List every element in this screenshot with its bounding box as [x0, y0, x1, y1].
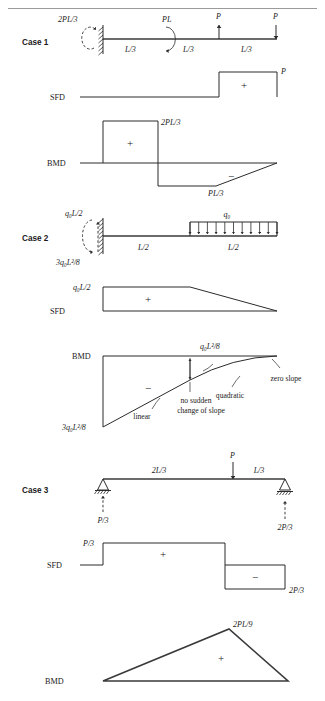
bmd-leader-zero-slope	[272, 359, 280, 368]
case-3-bmd-label: BMD	[45, 677, 64, 686]
case-1-segment-2-label: L/3	[182, 45, 194, 54]
case-1-bmd-annotation-2PL3: 2PL/3	[161, 118, 181, 127]
case-3-load-label: P	[229, 451, 235, 460]
case-1-bmd-label: BMD	[47, 159, 66, 168]
sfd-minus-sign: −	[252, 571, 258, 583]
case-2-reaction-force-label: q₀L/2	[65, 209, 82, 218]
case-3-beam: P 2L/3 L/3 P/3 2P/3	[95, 451, 294, 532]
roller-support-right	[277, 479, 294, 495]
case-2-sfd-label: SFD	[50, 307, 65, 316]
case-3-label: Case 3	[22, 486, 49, 495]
case-1-segment-3-label: L/3	[240, 45, 252, 54]
case-1-applied-moment-label: PL	[161, 15, 172, 24]
case-1-sfd-annotation-P: P	[280, 67, 286, 76]
case-2-sfd: SFD + q₀L/2	[50, 283, 277, 316]
case-2-segment-1-label: L/2	[137, 243, 149, 252]
case-3-sfd-label: SFD	[47, 561, 62, 570]
bmd-leader-quadratic	[232, 376, 240, 387]
case-2-bmd-annotation-quadratic: quadratic	[216, 391, 245, 400]
case-2-bmd-annotation-change-slope: change of slope	[177, 406, 225, 415]
case-3-left-reaction-label: P/3	[96, 516, 108, 525]
case-2-group: Case 2 q₀L/2 3q₀L²/8	[22, 209, 302, 432]
bmd-plus-sign: +	[127, 137, 133, 149]
case-3-bmd: BMD + 2PL/9	[45, 620, 288, 686]
case-2-reaction-moment-arc	[82, 220, 93, 252]
case-1-group: Case 1 2PL/3 PL P	[22, 12, 286, 198]
bmd-negative-region	[158, 163, 277, 186]
case-2-segment-2-label: L/2	[227, 243, 239, 252]
fixed-support-hatching	[99, 219, 104, 255]
bmd-minus-sign: −	[145, 382, 151, 394]
case-3-segment-2-label: L/3	[253, 466, 265, 475]
case-1-bmd: BMD + − 2PL/3 PL/3	[47, 118, 277, 198]
case-1-label: Case 1	[22, 38, 49, 47]
case-3-sfd-annotation-P3: P/3	[82, 539, 94, 548]
case-2-beam: q₀L/2 3q₀L²/8	[55, 209, 277, 267]
udl-arrows	[190, 222, 277, 234]
case-2-udl-label: q₀	[224, 210, 231, 219]
beam-diagrams-figure: Case 1 2PL/3 PL P	[0, 0, 325, 701]
case-1-sfd: SFD + P	[50, 67, 286, 102]
case-1-reaction-moment-label: 2PL/3	[58, 15, 78, 24]
case-2-sfd-annotation: q₀L/2	[73, 283, 90, 292]
case-1-beam: 2PL/3 PL P P L/3 L/3 L/3	[58, 12, 278, 55]
case-3-bmd-annotation-2PL9: 2PL/9	[233, 620, 253, 629]
case-1-load-up-label: P	[215, 12, 221, 21]
case-2-bmd-annotation-linear: linear	[133, 412, 151, 421]
case-2-reaction-moment-label: 3q₀L²/8	[55, 258, 80, 267]
sfd-plus-sign: +	[160, 548, 166, 560]
reaction-moment-arc	[82, 27, 96, 49]
case-1-bmd-annotation-PL3: PL/3	[207, 189, 224, 198]
case-2-bmd-label: BMD	[72, 352, 91, 361]
case-3-right-reaction-label: 2P/3	[277, 523, 292, 532]
case-1-sfd-label: SFD	[50, 93, 65, 102]
case-2-label: Case 2	[22, 234, 49, 243]
case-2-bmd-annotation-no-sudden: no sudden	[180, 396, 211, 405]
sfd-plus-sign: +	[145, 293, 151, 305]
sfd-outline	[103, 287, 277, 311]
case-3-group: Case 3	[22, 451, 304, 686]
case-2-bmd: BMD − q₀L²/8 3q₀L²/8 linear quadratic ze…	[61, 342, 302, 432]
bmd-minus-sign: −	[228, 170, 234, 182]
case-2-bmd-annotation-q0L2-8: q₀L²/8	[200, 342, 220, 351]
case-3-sfd: SFD + − P/3 2P/3	[47, 539, 304, 595]
case-2-distributed-load: q₀	[190, 210, 277, 236]
case-1-segment-1-label: L/3	[124, 45, 136, 54]
case-2-bmd-annotation-3q0L2-8: 3q₀L²/8	[61, 423, 86, 432]
fixed-support-hatching	[99, 27, 104, 55]
bmd-plus-sign: +	[218, 652, 224, 664]
bmd-triangle	[103, 629, 288, 681]
case-2-bmd-annotation-zero-slope: zero slope	[271, 374, 303, 383]
sfd-plus-sign: +	[241, 79, 247, 91]
case-3-segment-1-label: 2L/3	[152, 466, 167, 475]
sfd-outline	[80, 72, 277, 97]
case-3-sfd-annotation-2P3: 2P/3	[289, 586, 304, 595]
pin-support-left	[95, 479, 112, 494]
case-1-load-down-label: P	[272, 12, 278, 21]
